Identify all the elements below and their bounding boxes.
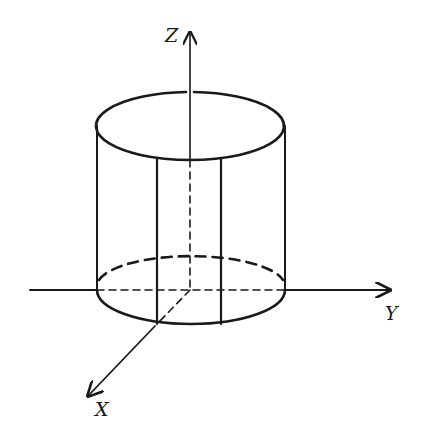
x-axis-inner-dashed: [157, 290, 190, 324]
x-axis-label: X: [95, 398, 109, 420]
z-axis-label: Z: [165, 24, 178, 46]
bottom-ellipse-back: [99, 256, 283, 280]
x-axis-outer: [88, 326, 155, 396]
cylinder-diagram: [0, 0, 428, 436]
bottom-ellipse-front: [97, 290, 285, 324]
y-axis-label: Y: [385, 302, 398, 324]
